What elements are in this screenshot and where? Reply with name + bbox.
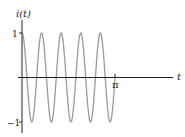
y-tick-label-1: 1 <box>12 29 18 39</box>
x-tick-label-pi: π <box>112 79 119 90</box>
y-tick-label-neg1: −1 <box>7 118 20 128</box>
plot-area: i(t) t 1 −1 π <box>0 0 185 137</box>
x-axis-label: t <box>177 71 182 82</box>
y-axis-label: i(t) <box>16 8 31 19</box>
